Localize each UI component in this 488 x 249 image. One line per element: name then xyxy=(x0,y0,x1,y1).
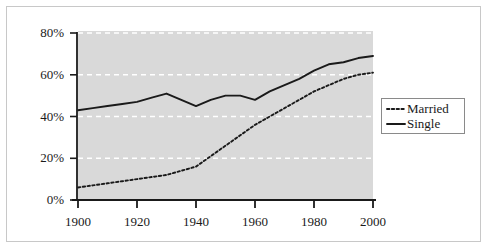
x-tick-label-1900: 1900 xyxy=(65,214,91,230)
x-tick-label-1980: 1980 xyxy=(301,214,327,230)
y-tick-label-60: 60% xyxy=(20,67,64,83)
legend-label-married: Married xyxy=(406,101,449,116)
legend-label-single: Single xyxy=(406,116,440,131)
y-axis-ticks xyxy=(70,33,77,200)
y-tick-label-40: 40% xyxy=(20,109,64,125)
chart-legend: Married Single xyxy=(381,98,465,134)
legend-entry-single: Single xyxy=(386,116,464,131)
chart-figure: 80% 60% 40% 20% 0% 1900 1920 1940 1960 1… xyxy=(0,0,488,249)
solid-line-icon xyxy=(386,119,406,129)
x-tick-label-1920: 1920 xyxy=(124,214,150,230)
x-tick-label-2000: 2000 xyxy=(360,214,386,230)
y-tick-label-20: 20% xyxy=(20,150,64,166)
legend-entry-married: Married xyxy=(386,101,464,116)
x-tick-label-1940: 1940 xyxy=(183,214,209,230)
x-axis-ticks xyxy=(78,200,373,208)
y-tick-label-80: 80% xyxy=(20,25,64,41)
y-tick-label-0: 0% xyxy=(20,192,64,208)
x-tick-label-1960: 1960 xyxy=(242,214,268,230)
plot-background xyxy=(78,31,373,200)
dotted-line-icon xyxy=(386,104,406,114)
